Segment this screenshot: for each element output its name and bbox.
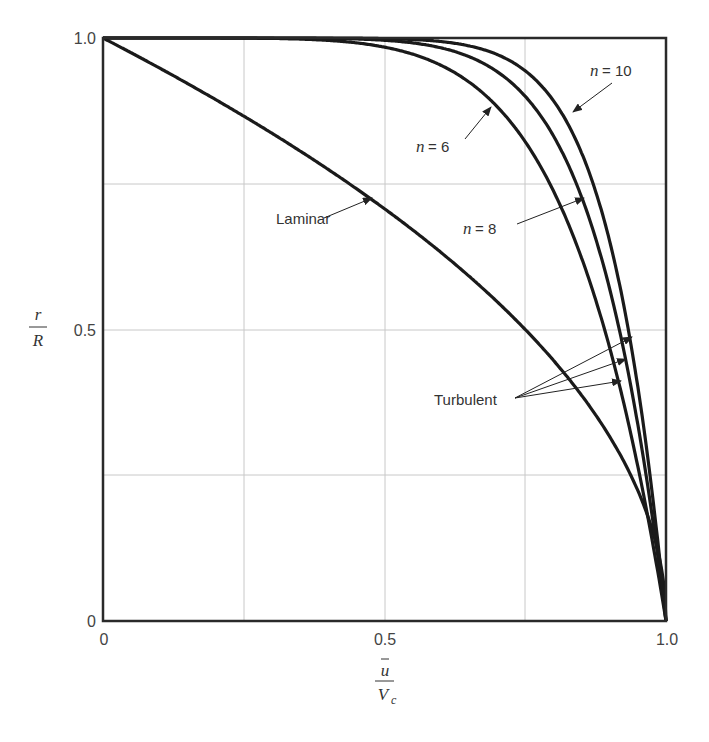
y-tick-0: 0 bbox=[87, 613, 96, 630]
annotation-turbulent: Turbulent bbox=[434, 337, 632, 408]
svg-text:= 8: = 8 bbox=[475, 220, 496, 237]
svg-text:n: n bbox=[590, 61, 599, 80]
annotation-n6: n = 6 bbox=[416, 107, 491, 156]
y-tick-05: 0.5 bbox=[74, 322, 96, 339]
x-tick-0: 0 bbox=[100, 631, 109, 648]
annotation-n10: n = 10 bbox=[573, 61, 632, 112]
svg-text:V: V bbox=[378, 685, 391, 704]
x-tick-1: 1.0 bbox=[656, 631, 678, 648]
svg-text:= 10: = 10 bbox=[602, 62, 632, 79]
x-tick-05: 0.5 bbox=[374, 631, 396, 648]
svg-text:R: R bbox=[32, 331, 44, 350]
svg-text:= 6: = 6 bbox=[428, 138, 449, 155]
svg-text:n: n bbox=[463, 219, 472, 238]
svg-text:c: c bbox=[391, 693, 397, 707]
svg-text:Laminar: Laminar bbox=[276, 210, 330, 227]
velocity-profile-chart: 1.0 0.5 0 0 0.5 1.0 r R u V c Laminar n … bbox=[0, 0, 709, 742]
svg-text:u: u bbox=[381, 661, 390, 680]
annotation-laminar: Laminar bbox=[276, 198, 372, 227]
y-tick-1: 1.0 bbox=[74, 30, 96, 47]
x-axis-label: u V c bbox=[375, 659, 397, 707]
svg-text:n: n bbox=[416, 137, 425, 156]
grid-lines bbox=[103, 38, 666, 621]
svg-text:r: r bbox=[35, 305, 42, 324]
svg-text:Turbulent: Turbulent bbox=[434, 391, 498, 408]
y-axis-label: r R bbox=[29, 305, 47, 350]
